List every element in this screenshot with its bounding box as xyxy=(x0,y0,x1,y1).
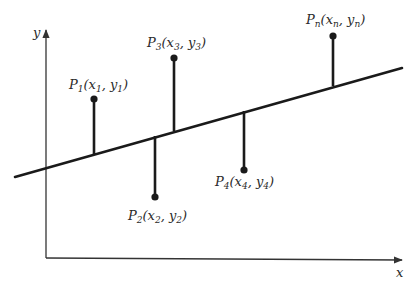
label-p2: P2(x2, y2) xyxy=(127,208,187,225)
x-axis-label: x xyxy=(396,265,404,280)
data-points xyxy=(90,32,336,200)
y-axis-label: y xyxy=(32,25,41,40)
label-pn: Pn(xn, yn) xyxy=(305,12,365,29)
label-p1: P1(x1, y1) xyxy=(68,77,128,94)
regression-diagram: y x P1(x1, y1) P2(x2, y2) P3(x3, y3) P4(… xyxy=(0,0,418,287)
label-p3: P3(x3, y3) xyxy=(146,35,206,52)
point-p3-dot xyxy=(170,54,177,61)
axes: y x xyxy=(32,25,404,280)
point-p1-dot xyxy=(90,95,97,102)
x-axis xyxy=(46,258,402,260)
residuals xyxy=(94,36,333,197)
point-pn-dot xyxy=(329,32,336,39)
label-p4: P4(x4, y4) xyxy=(214,174,274,191)
point-p4-dot xyxy=(240,166,247,173)
point-p2-dot xyxy=(151,193,158,200)
point-labels: P1(x1, y1) P2(x2, y2) P3(x3, y3) P4(x4, … xyxy=(68,12,365,225)
